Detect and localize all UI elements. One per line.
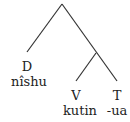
edge-root-d <box>27 4 62 52</box>
node-t-category: T <box>113 88 122 103</box>
edge-root-inner <box>62 4 117 81</box>
node-d-category: D <box>22 59 32 74</box>
edge-inner-v <box>76 53 96 81</box>
node-v-category: V <box>71 88 80 103</box>
node-t-word: -ua <box>107 103 128 118</box>
node-d-word: nîshu <box>11 74 47 89</box>
node-v-word: kutin <box>63 103 97 118</box>
